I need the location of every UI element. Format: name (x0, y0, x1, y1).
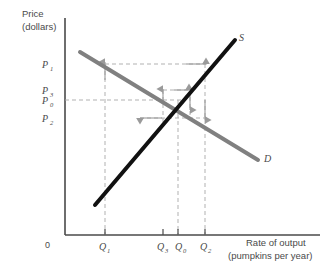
demand-curve-line (80, 52, 258, 160)
x-tick-q0-label: Q (175, 241, 183, 252)
y-tick-p2-subscript: 2 (50, 119, 54, 126)
y-axis-title-line2: (dollars) (22, 21, 56, 32)
y-tick-p1: P 1 (41, 59, 53, 72)
supply-curve-label: S (239, 32, 244, 43)
y-axis-title: Price (dollars) (22, 8, 56, 32)
x-tick-q3-subscript: 3 (164, 247, 169, 254)
origin-label: 0 (45, 240, 50, 250)
x-axis-title-line2: (pumpkins per year) (228, 250, 312, 261)
x-tick-q0-subscript: 0 (183, 247, 187, 254)
x-axis-title: Rate of output (pumpkins per year) (228, 237, 312, 261)
y-axis-tick-labels: P 1 P 3 P 0 P 2 (41, 59, 54, 126)
y-tick-p0-label: P (41, 95, 48, 106)
supply-demand-chart: Price (dollars) Rate of output (pumpkins… (0, 0, 332, 274)
y-tick-p3-subscript: 3 (49, 91, 54, 98)
x-tick-q2-label: Q (200, 241, 208, 252)
x-tick-q2: Q 2 (200, 241, 212, 254)
x-tick-q3-label: Q (157, 241, 165, 252)
y-tick-p1-label: P (41, 59, 48, 70)
x-tick-q0: Q 0 (175, 241, 187, 254)
y-tick-p1-subscript: 1 (50, 65, 53, 72)
y-tick-p0-subscript: 0 (50, 101, 54, 108)
x-tick-q1-subscript: 1 (107, 247, 110, 254)
supply-curve-line (95, 40, 235, 205)
y-axis-title-line1: Price (22, 8, 44, 19)
x-axis-title-line1: Rate of output (246, 237, 306, 248)
x-tick-q3: Q 3 (157, 241, 169, 254)
x-axis-tick-labels: Q 1 Q 3 Q 0 Q 2 (99, 241, 212, 254)
x-tick-q1-label: Q (99, 241, 107, 252)
y-tick-p2-label: P (41, 113, 48, 124)
x-axis-tick-marks (105, 229, 205, 235)
plot-axes (65, 18, 320, 235)
supply-curve: S (95, 32, 244, 205)
x-tick-q1: Q 1 (99, 241, 110, 254)
demand-curve-label: D (263, 153, 272, 164)
x-tick-q2-subscript: 2 (208, 247, 212, 254)
y-tick-p2: P 2 (41, 113, 54, 126)
